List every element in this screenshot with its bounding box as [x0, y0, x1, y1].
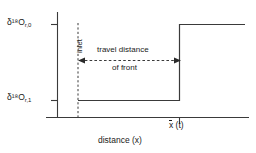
plot-canvas [0, 0, 256, 153]
inlet-label: inlet [76, 39, 84, 53]
x-axis-title: distance (x) [98, 136, 142, 145]
travel-distance-label-line2: of front [112, 64, 137, 72]
y-tick-label-lower: δ¹⁸Or,1 [7, 93, 31, 102]
y-tick-label-upper-subscript: r,0 [25, 22, 32, 28]
isotope-front-diagram: δ¹⁸Or,0 δ¹⁸Or,1 inlet travel distance of… [0, 0, 256, 153]
x-tick-label-suffix: (t) [173, 120, 183, 130]
x-tick-label-symbol: x [169, 121, 173, 130]
y-tick-label-lower-subscript: r,1 [25, 97, 32, 103]
y-tick-label-upper-text: δ¹⁸O [7, 17, 25, 27]
y-tick-label-lower-text: δ¹⁸O [7, 92, 25, 102]
step-curve [78, 25, 245, 101]
travel-distance-arrowhead-left [78, 57, 85, 63]
x-tick-label-front-position: x (t) [169, 121, 184, 130]
y-tick-label-upper: δ¹⁸Or,0 [7, 18, 31, 27]
travel-distance-label-line1: travel distance [97, 46, 149, 54]
